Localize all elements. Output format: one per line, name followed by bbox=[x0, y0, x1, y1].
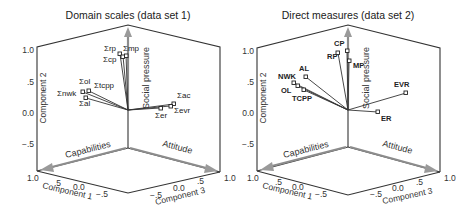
label-nwk: NWK bbox=[278, 72, 296, 81]
arrow-left-icon bbox=[260, 162, 274, 171]
label-rp: Σrp bbox=[104, 44, 117, 53]
label-nwk: Σnwk bbox=[57, 89, 77, 98]
arrow-up-icon bbox=[124, 27, 132, 37]
label-er: Σer bbox=[155, 111, 167, 120]
label-cp: CP bbox=[334, 39, 344, 48]
arrow-right-icon bbox=[424, 164, 438, 173]
svg-text:1.0: 1.0 bbox=[242, 46, 254, 56]
z-axis-label: Component 3 bbox=[381, 186, 433, 206]
chart-direct-measures: Direct measures (data set 2) bbox=[242, 9, 456, 206]
arrow-left-icon bbox=[40, 163, 54, 172]
svg-text:−.5: −.5 bbox=[22, 139, 34, 149]
label-tcpp: TCPP bbox=[292, 94, 312, 103]
arrow-up-icon bbox=[344, 27, 352, 37]
svg-text:.5: .5 bbox=[416, 177, 423, 187]
svg-text:0.0: 0.0 bbox=[242, 108, 254, 118]
label-rp: RP bbox=[327, 52, 337, 61]
figure: Domain scales (data set 1) bbox=[0, 0, 475, 215]
dim-social-pressure: Social pressure bbox=[141, 47, 151, 109]
svg-text:1.0: 1.0 bbox=[224, 173, 236, 183]
chart-domain-scales: Domain scales (data set 1) bbox=[22, 9, 236, 207]
y-axis-label: Component 2 bbox=[258, 72, 268, 123]
label-tcpp: Σtcpp bbox=[94, 81, 115, 90]
svg-text:.5: .5 bbox=[27, 77, 34, 87]
chart-title: Domain scales (data set 1) bbox=[66, 9, 191, 21]
y-axis-ticks: 1.0 .5 0.0 −.5 bbox=[242, 46, 254, 149]
point-labels: CP RP MP AL NWK OL TCPP EVR ER bbox=[278, 39, 410, 123]
label-evr: EVR bbox=[394, 80, 410, 89]
dim-attitude: Attitude bbox=[381, 138, 413, 156]
arrow-right-icon bbox=[204, 164, 218, 173]
label-al: Σal bbox=[79, 99, 90, 108]
label-ac: Σac bbox=[177, 91, 190, 100]
svg-text:−.5: −.5 bbox=[242, 139, 254, 149]
svg-text:1.0: 1.0 bbox=[22, 45, 34, 55]
y-axis-ticks: 1.0 .5 0.0 −.5 bbox=[22, 45, 34, 149]
svg-text:0.0: 0.0 bbox=[22, 108, 34, 118]
chart-title: Direct measures (data set 2) bbox=[282, 9, 414, 21]
data-markers bbox=[292, 49, 408, 114]
label-er: ER bbox=[381, 114, 392, 123]
svg-text:.5: .5 bbox=[247, 77, 254, 87]
label-ol: Σol bbox=[79, 77, 90, 86]
dim-social-pressure: Social pressure bbox=[361, 47, 371, 109]
dim-attitude: Attitude bbox=[161, 138, 193, 156]
svg-text:−.5: −.5 bbox=[370, 189, 382, 199]
label-evr: Σevr bbox=[174, 106, 190, 115]
label-cp: Σcp bbox=[103, 55, 117, 64]
label-mp: Σmp bbox=[123, 44, 140, 53]
label-ol: OL bbox=[281, 86, 292, 95]
svg-text:1.0: 1.0 bbox=[444, 173, 456, 183]
svg-text:1.0: 1.0 bbox=[27, 173, 39, 183]
label-al: AL bbox=[299, 64, 309, 73]
y-axis-label: Component 2 bbox=[38, 72, 48, 123]
svg-text:−.5: −.5 bbox=[96, 189, 108, 199]
svg-text:1.0: 1.0 bbox=[247, 173, 259, 183]
svg-text:−.5: −.5 bbox=[315, 189, 327, 199]
